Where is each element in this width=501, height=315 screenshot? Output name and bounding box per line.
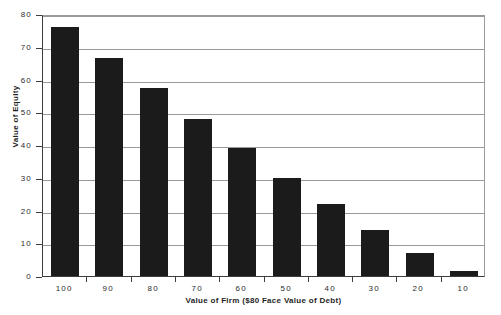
x-axis-tick bbox=[396, 277, 397, 282]
x-axis-tick bbox=[131, 277, 132, 282]
y-axis-label: 30 bbox=[21, 174, 32, 183]
x-axis-label: 100 bbox=[42, 284, 86, 293]
x-axis-label: 90 bbox=[86, 284, 130, 293]
x-axis-label: 50 bbox=[264, 284, 308, 293]
x-axis-label: 60 bbox=[219, 284, 263, 293]
bar-chart: 01020304050607080 100908070605040302010 … bbox=[0, 0, 501, 315]
y-axis-tick bbox=[36, 81, 42, 82]
x-axis-label: 20 bbox=[396, 284, 440, 293]
x-axis-label: 40 bbox=[308, 284, 352, 293]
plot-area bbox=[42, 15, 485, 277]
y-axis-label: 20 bbox=[21, 207, 32, 216]
y-axis-tick bbox=[36, 113, 42, 114]
bar-slot bbox=[265, 16, 309, 276]
bar[interactable] bbox=[450, 271, 478, 276]
x-axis-tick bbox=[175, 277, 176, 282]
bar[interactable] bbox=[317, 204, 345, 276]
bar-slot bbox=[442, 16, 486, 276]
bar[interactable] bbox=[140, 88, 168, 276]
y-axis-label: 50 bbox=[21, 108, 32, 117]
y-axis-label: 40 bbox=[21, 141, 32, 150]
y-axis-label: 0 bbox=[26, 272, 32, 281]
y-axis-label: 10 bbox=[21, 239, 32, 248]
x-axis-title: Value of Firm ($80 Face Value of Debt) bbox=[42, 296, 485, 305]
x-axis-label: 80 bbox=[131, 284, 175, 293]
bar-slot bbox=[132, 16, 176, 276]
y-axis-label: 70 bbox=[21, 43, 32, 52]
y-axis-tick bbox=[36, 179, 42, 180]
bar-slot bbox=[87, 16, 131, 276]
y-axis-tick bbox=[36, 244, 42, 245]
bar-slot bbox=[176, 16, 220, 276]
bar[interactable] bbox=[228, 148, 256, 276]
bars-container bbox=[43, 16, 484, 276]
x-axis-tick bbox=[441, 277, 442, 282]
y-axis-tick bbox=[36, 48, 42, 49]
bar[interactable] bbox=[273, 178, 301, 276]
bar-slot bbox=[353, 16, 397, 276]
y-axis-tick bbox=[36, 146, 42, 147]
bar-slot bbox=[309, 16, 353, 276]
y-axis-label: 60 bbox=[21, 76, 32, 85]
y-axis-tick bbox=[36, 277, 42, 278]
x-axis-tick bbox=[308, 277, 309, 282]
x-axis-tick bbox=[86, 277, 87, 282]
bar[interactable] bbox=[406, 253, 434, 276]
x-axis-label: 30 bbox=[352, 284, 396, 293]
x-axis-tick bbox=[352, 277, 353, 282]
x-axis-tick bbox=[264, 277, 265, 282]
bar[interactable] bbox=[95, 58, 123, 276]
bar-slot bbox=[397, 16, 441, 276]
y-axis-label: 80 bbox=[21, 10, 32, 19]
bar-slot bbox=[43, 16, 87, 276]
y-axis-tick bbox=[36, 212, 42, 213]
bar-slot bbox=[220, 16, 264, 276]
x-axis-tick bbox=[219, 277, 220, 282]
bar[interactable] bbox=[361, 230, 389, 276]
bar[interactable] bbox=[51, 27, 79, 276]
x-axis-label: 70 bbox=[175, 284, 219, 293]
x-axis-label: 10 bbox=[441, 284, 485, 293]
bar[interactable] bbox=[184, 119, 212, 276]
y-axis-title: Value of Equity bbox=[11, 57, 20, 177]
y-axis-tick bbox=[36, 15, 42, 16]
